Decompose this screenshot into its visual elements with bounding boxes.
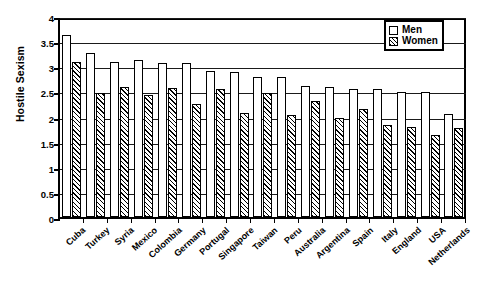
y-axis-tick-label: 0 (30, 214, 54, 225)
bar-men-syria (110, 62, 119, 217)
bar-men-usa (421, 92, 430, 217)
bar-men-england (397, 92, 406, 217)
legend-item-men: Men (389, 25, 438, 35)
bar-women-netherlands (454, 128, 463, 217)
legend-label-women: Women (402, 36, 438, 46)
bar-men-argentina (325, 87, 334, 217)
bar-group (299, 18, 323, 217)
bar-women-usa (431, 135, 440, 217)
bar-group (442, 18, 466, 217)
x-axis-tick-label: Spain (350, 225, 375, 249)
bar-women-singapore (240, 113, 249, 217)
chart-legend: Men Women (384, 20, 444, 51)
bar-women-spain (359, 109, 368, 217)
bar-women-italy (383, 125, 392, 217)
bar-men-turkey (86, 53, 95, 217)
bar-women-mexico (144, 95, 153, 217)
bar-group (156, 18, 180, 217)
legend-label-men: Men (402, 25, 422, 35)
y-axis-tick-label: 1.5 (30, 138, 54, 149)
bar-women-syria (120, 87, 129, 217)
bar-women-portugal (216, 89, 225, 217)
y-axis-tick-label: 2.5 (30, 88, 54, 99)
bar-men-peru (277, 77, 286, 217)
y-axis-tick-label: 3.5 (30, 38, 54, 49)
bar-group (132, 18, 156, 217)
y-axis-tick-label: 4 (30, 13, 54, 24)
y-axis-tick-label: 2 (30, 113, 54, 124)
y-axis-tick-label: 3 (30, 63, 54, 74)
bar-women-taiwan (263, 93, 272, 217)
bar-women-turkey (96, 93, 105, 217)
bar-men-netherlands (444, 114, 453, 217)
bar-men-colombia (158, 63, 167, 217)
bar-men-cuba (62, 35, 71, 217)
x-axis-tick-label: Turkey (83, 225, 111, 252)
bar-women-colombia (168, 88, 177, 217)
bar-group (251, 18, 275, 217)
bar-men-germany (182, 63, 191, 217)
y-axis-tick-label: 1 (30, 163, 54, 174)
bar-men-spain (349, 89, 358, 217)
legend-swatch-men-icon (389, 26, 398, 35)
bar-women-cuba (72, 62, 81, 217)
hostile-sexism-bar-chart: Hostile Sexism 00.511.522.533.54 CubaTur… (0, 0, 486, 298)
x-axis-labels: CubaTurkeySyriaMexicoColombiaGermanyPort… (58, 225, 466, 297)
bar-women-argentina (335, 118, 344, 217)
bar-men-australia (301, 86, 310, 217)
y-axis-tick-mark (54, 219, 60, 221)
bar-group (60, 18, 84, 217)
legend-swatch-women-icon (389, 37, 398, 46)
bar-group (275, 18, 299, 217)
bar-women-england (407, 127, 416, 217)
bar-men-portugal (206, 71, 215, 217)
bar-women-peru (287, 115, 296, 218)
bar-men-italy (373, 89, 382, 217)
y-axis-tick-label: 0.5 (30, 188, 54, 199)
bar-group (84, 18, 108, 217)
bar-group (347, 18, 371, 217)
legend-item-women: Women (389, 36, 438, 46)
bar-men-singapore (230, 72, 239, 217)
bar-men-mexico (134, 60, 143, 217)
bar-group (227, 18, 251, 217)
bar-group (108, 18, 132, 217)
bar-group (179, 18, 203, 217)
bar-women-germany (192, 104, 201, 217)
x-axis-tick-label: Taiwan (251, 225, 280, 252)
y-axis-title: Hostile Sexism (14, 24, 26, 144)
bar-group (323, 18, 347, 217)
bar-men-taiwan (253, 77, 262, 217)
bar-women-australia (311, 101, 320, 217)
bar-group (203, 18, 227, 217)
